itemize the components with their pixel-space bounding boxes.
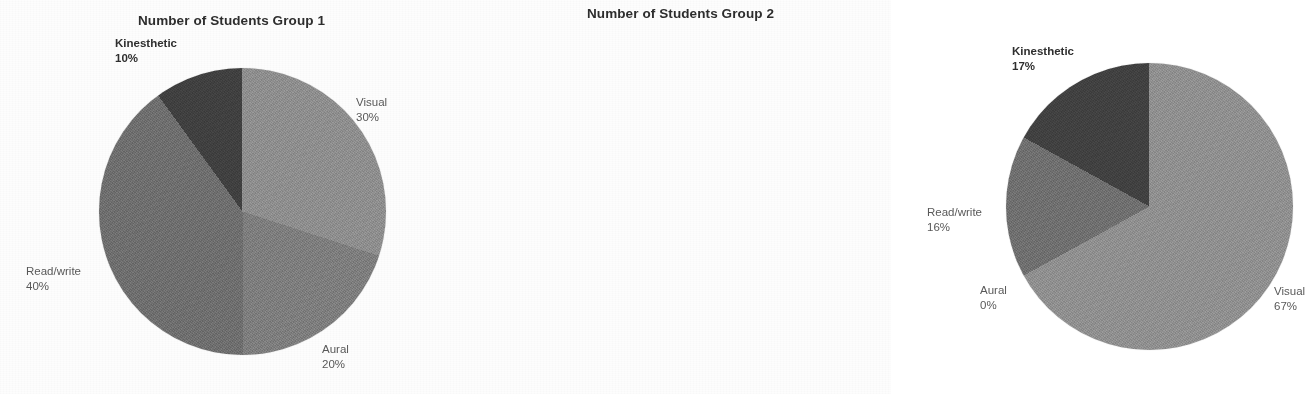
pie-slices-group-1 [99,68,386,355]
slice-label-visual-name-group-2: Visual [1274,285,1305,297]
slice-label-readwrite-pct-group-1: 40% [26,279,118,294]
slice-label-kinesthetic-group-1: Kinesthetic 10% [115,36,220,66]
slice-label-aural-group-2: Aural 0% [980,283,1042,313]
pie-chart-group-1: Number of Students Group 1 Kinesthetic 1… [0,0,445,394]
slice-label-aural-pct-group-2: 0% [980,298,1042,313]
slice-label-visual-group-2: Visual 67% [1274,284,1309,314]
slice-label-aural-group-1: Aural 20% [322,342,392,372]
slice-label-visual-pct-group-1: 30% [356,110,430,125]
slice-label-kinesthetic-name-group-1: Kinesthetic [115,37,177,49]
slice-label-readwrite-pct-group-2: 16% [927,220,1019,235]
slice-label-aural-pct-group-1: 20% [322,357,392,372]
slice-label-kinesthetic-group-2: Kinesthetic 17% [1012,44,1117,74]
pie-graphic-group-2 [1006,63,1293,350]
slice-label-readwrite-name-group-2: Read/write [927,206,982,218]
pie-graphic-group-1 [99,68,386,355]
slice-label-visual-name-group-1: Visual [356,96,387,108]
slice-label-aural-name-group-1: Aural [322,343,349,355]
slice-label-kinesthetic-pct-group-2: 17% [1012,59,1117,74]
slice-label-aural-name-group-2: Aural [980,284,1007,296]
pie-slices-group-2 [1006,63,1293,350]
pie-chart-group-2: Number of Students Group 2 Kinesthetic 1… [446,0,891,394]
slice-label-kinesthetic-name-group-2: Kinesthetic [1012,45,1074,57]
slice-label-readwrite-group-1: Read/write 40% [26,264,118,294]
slice-label-readwrite-group-2: Read/write 16% [927,205,1019,235]
slice-label-visual-group-1: Visual 30% [356,95,430,125]
chart-title-group-2: Number of Students Group 2 [458,6,903,21]
slice-label-kinesthetic-pct-group-1: 10% [115,51,220,66]
chart-title-group-1: Number of Students Group 1 [9,13,454,28]
slice-label-readwrite-name-group-1: Read/write [26,265,81,277]
slice-label-visual-pct-group-2: 67% [1274,299,1309,314]
